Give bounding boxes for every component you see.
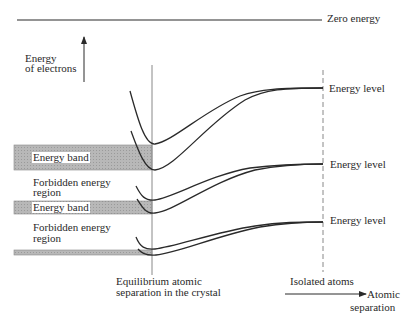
separation-axis-label-line2: separation (350, 302, 395, 313)
separation-axis-label-line1: Atomic (367, 289, 400, 300)
energy-level-label-1: Energy level (329, 83, 385, 94)
energy-curve-middle-top (136, 164, 323, 200)
energy-curve-lower-top (136, 222, 323, 249)
energy-curve-upper-top (130, 88, 323, 144)
energy-curve-lower-bottom (138, 222, 323, 255)
energy-band-label-middle: Energy band (32, 202, 90, 213)
energy-band-label-upper: Energy band (32, 152, 90, 163)
zero-energy-label: Zero energy (327, 13, 380, 24)
equilibrium-label-line2: separation in the crystal (116, 287, 221, 298)
energy-curve-upper-bottom (131, 88, 323, 170)
energy-band-lower (14, 250, 152, 255)
forbidden-region-label-lower-line2: region (33, 233, 61, 244)
energy-level-label-2: Energy level (330, 159, 386, 170)
forbidden-region-label-upper-line2: region (33, 187, 61, 198)
isolated-atoms-label: Isolated atoms (290, 276, 354, 287)
energy-axis-label-line2: of electrons (25, 63, 77, 74)
energy-curve-middle-bottom (137, 164, 323, 213)
energy-level-label-3: Energy level (330, 215, 386, 226)
